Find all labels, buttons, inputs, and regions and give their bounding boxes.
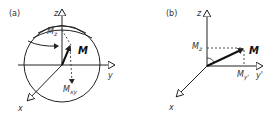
vector-label: M: [78, 45, 88, 56]
x-axis: [177, 66, 207, 96]
x-axis-label: x: [168, 103, 174, 112]
mz-projection: [62, 30, 71, 45]
magnetization-vector: [207, 49, 243, 66]
z-axis-label: z: [53, 9, 59, 18]
angle-arc: [207, 58, 214, 62]
panel-a: (a) z y x M Mz Mxy: [9, 9, 114, 113]
mz-label: Mz: [47, 27, 58, 37]
panel-b-label: (b): [166, 9, 177, 18]
panel-a-label: (a): [9, 9, 20, 18]
z-axis-label: z: [196, 9, 202, 18]
y-prime-axis-label: y': [255, 71, 263, 80]
vector-label: M: [249, 45, 259, 56]
mz-label: Mz: [192, 42, 203, 52]
y-axis-label: y: [107, 71, 113, 80]
magnetization-vector: [62, 46, 70, 65]
my-label: My': [237, 70, 249, 81]
x-axis-label: x: [17, 104, 23, 113]
mxy-label: Mxy: [63, 85, 77, 96]
figure: (a) z y x M Mz Mxy (b): [0, 0, 274, 115]
panel-b: (b) z y' x M Mz My': [166, 9, 263, 112]
x-axis: [28, 65, 62, 100]
precession-arrow: [28, 41, 58, 46]
